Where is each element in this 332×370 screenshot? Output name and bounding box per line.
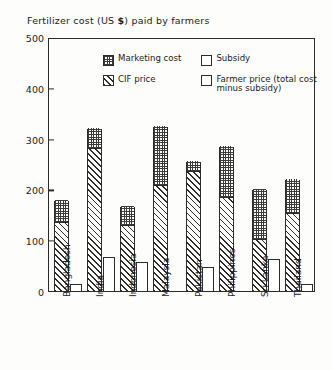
farmer-price-bar[interactable] <box>136 262 148 292</box>
x-axis-label: Bangladesh <box>62 244 72 297</box>
chart-title-prefix: Fertilizer cost (US <box>27 15 118 26</box>
marketing-cost-segment <box>88 128 101 148</box>
marketing-cost-segment <box>253 189 266 240</box>
chart-legend: Marketing costSubsidyCIF priceFarmer pri… <box>103 54 332 94</box>
farmer-price-bar[interactable] <box>301 284 313 292</box>
x-axis-label: Malaysia <box>161 258 171 297</box>
legend-swatch-icon <box>103 55 114 66</box>
legend-item[interactable]: CIF price <box>103 75 181 95</box>
legend-item[interactable]: Subsidy <box>201 54 332 66</box>
cif-price-segment <box>88 149 101 291</box>
x-axis-label: Thailand <box>293 258 303 297</box>
y-axis-tick-label: 300 <box>14 134 44 145</box>
x-axis-label: Philippines <box>227 249 237 298</box>
legend-swatch-icon <box>201 75 212 86</box>
farmer-price-bar[interactable] <box>268 259 280 292</box>
legend-label: Marketing cost <box>118 54 181 64</box>
legend-swatch-icon <box>103 75 114 86</box>
marketing-cost-segment <box>187 161 200 171</box>
y-axis-tick-label: 0 <box>14 287 44 298</box>
y-axis-tick-label: 100 <box>14 236 44 247</box>
marketing-cost-segment <box>154 126 167 186</box>
legend-item[interactable]: Marketing cost <box>103 54 181 66</box>
farmer-price-bar[interactable] <box>202 267 214 292</box>
fertilizer-cost-chart: Fertilizer cost (US $) paid by farmers 0… <box>0 0 332 370</box>
marketing-cost-segment <box>121 206 134 227</box>
legend-swatch-icon <box>201 55 212 66</box>
total-cost-bar[interactable] <box>87 129 102 292</box>
marketing-cost-segment <box>286 179 299 214</box>
y-axis-tick-label: 400 <box>14 83 44 94</box>
x-axis-label: Pakistan <box>194 259 204 297</box>
chart-title-suffix: ) paid by farmers <box>124 15 209 26</box>
x-axis-label: Sri Lanka <box>260 255 270 297</box>
farmer-price-bar[interactable] <box>70 284 82 292</box>
x-axis-label: India <box>95 275 105 297</box>
legend-label: Subsidy <box>216 54 250 64</box>
legend-item[interactable]: Farmer price (total cost minus subsidy) <box>201 75 332 95</box>
y-axis-tick-label: 500 <box>14 33 44 44</box>
legend-label: Farmer price (total cost minus subsidy) <box>216 75 332 95</box>
marketing-cost-segment <box>55 200 68 223</box>
farmer-price-bar[interactable] <box>103 257 115 292</box>
legend-label: CIF price <box>118 75 156 85</box>
chart-title: Fertilizer cost (US $) paid by farmers <box>27 15 210 26</box>
marketing-cost-segment <box>220 146 233 198</box>
y-axis-tick-label: 200 <box>14 185 44 196</box>
x-axis-label: Indonesia <box>128 253 138 297</box>
